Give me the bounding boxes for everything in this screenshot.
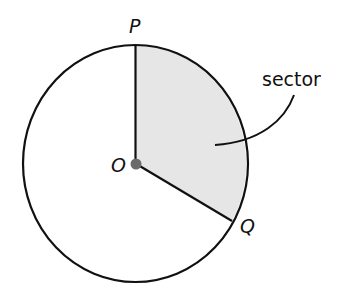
center-point-dot (131, 159, 142, 170)
point-label-p: P (129, 15, 141, 37)
point-label-o: O (111, 154, 126, 176)
point-label-q: Q (240, 215, 255, 237)
shaded-sector (136, 45, 247, 221)
sector-label: sector (262, 68, 321, 90)
circle-sector-diagram: P O Q sector (0, 0, 345, 295)
